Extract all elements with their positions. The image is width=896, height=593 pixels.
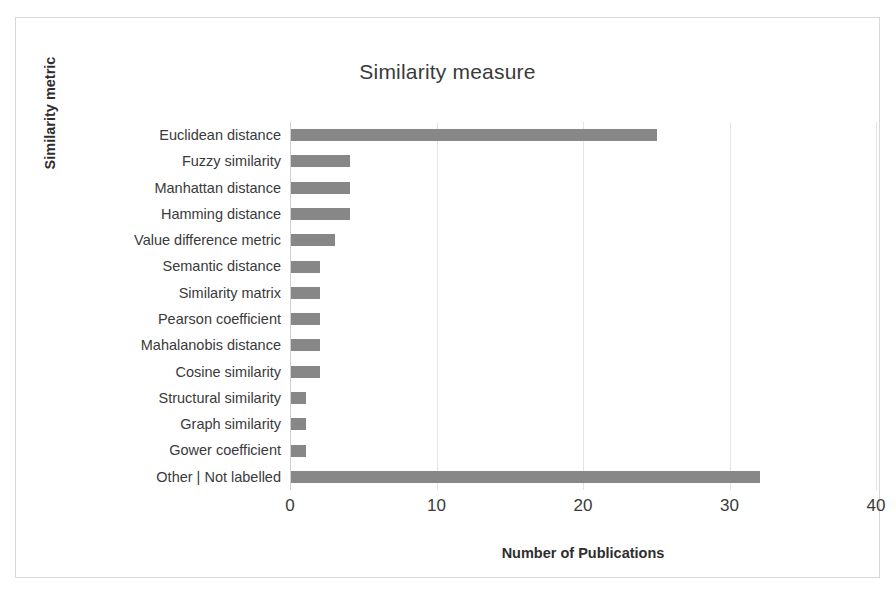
bar[interactable] (291, 155, 350, 167)
bar-row[interactable] (290, 253, 876, 279)
bar-row[interactable] (290, 201, 876, 227)
value-axis-tick-labels: 010203040 (290, 496, 876, 522)
bar[interactable] (291, 287, 320, 299)
x-tick-label: 0 (285, 496, 294, 516)
category-label: Semantic distance (76, 253, 281, 279)
category-label: Structural similarity (76, 385, 281, 411)
bar-row[interactable] (290, 227, 876, 253)
category-label: Value difference metric (76, 227, 281, 253)
category-axis-labels: Euclidean distanceFuzzy similarityManhat… (76, 122, 281, 490)
category-label: Manhattan distance (76, 175, 281, 201)
bar-row[interactable] (290, 175, 876, 201)
chart-title: Similarity measure (16, 60, 879, 84)
category-label: Pearson coefficient (76, 306, 281, 332)
category-label: Graph similarity (76, 411, 281, 437)
y-axis-title: Similarity metric (42, 18, 58, 208)
category-label: Euclidean distance (76, 122, 281, 148)
bar-row[interactable] (290, 306, 876, 332)
category-label: Gower coefficient (76, 437, 281, 463)
bar[interactable] (291, 129, 657, 141)
category-label: Fuzzy similarity (76, 148, 281, 174)
bar[interactable] (291, 339, 320, 351)
x-tick-label: 30 (720, 496, 739, 516)
bar-row[interactable] (290, 464, 876, 490)
bar-row[interactable] (290, 280, 876, 306)
bar-row[interactable] (290, 411, 876, 437)
plot-area (290, 122, 876, 490)
bar[interactable] (291, 392, 306, 404)
bar-row[interactable] (290, 359, 876, 385)
bar-row[interactable] (290, 148, 876, 174)
category-label: Cosine similarity (76, 359, 281, 385)
x-axis-title: Number of Publications (290, 545, 876, 561)
x-tick-label: 40 (867, 496, 886, 516)
bar-row[interactable] (290, 332, 876, 358)
bar[interactable] (291, 208, 350, 220)
bar[interactable] (291, 261, 320, 273)
x-tick-label: 10 (427, 496, 446, 516)
bar[interactable] (291, 234, 335, 246)
bar[interactable] (291, 313, 320, 325)
chart-frame: Similarity measure Similarity metric Euc… (15, 17, 880, 578)
bar[interactable] (291, 418, 306, 430)
x-tick-label: 20 (574, 496, 593, 516)
bar-row[interactable] (290, 122, 876, 148)
bar[interactable] (291, 182, 350, 194)
category-label: Other | Not labelled (76, 464, 281, 490)
bar[interactable] (291, 445, 306, 457)
bar-row[interactable] (290, 437, 876, 463)
bar[interactable] (291, 366, 320, 378)
bar[interactable] (291, 471, 760, 483)
category-label: Hamming distance (76, 201, 281, 227)
category-label: Similarity matrix (76, 280, 281, 306)
bar-row[interactable] (290, 385, 876, 411)
gridline-40 (876, 122, 877, 490)
category-label: Mahalanobis distance (76, 332, 281, 358)
